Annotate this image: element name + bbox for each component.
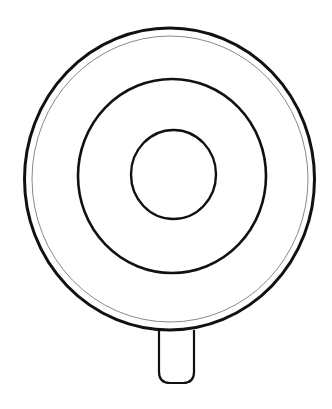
lollipop-drawing	[0, 0, 332, 409]
lollipop-stick	[159, 330, 194, 383]
outer-ring	[25, 28, 315, 330]
